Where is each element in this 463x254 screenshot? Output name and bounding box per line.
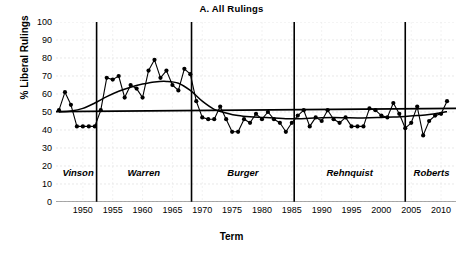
y-tick-label: 70 (24, 72, 52, 81)
chart-title: A. All Rulings (0, 3, 463, 14)
y-tick-label: 20 (24, 162, 52, 171)
x-tick-label: 1965 (162, 205, 182, 215)
y-tick-label: 10 (24, 180, 52, 189)
x-tick-label: 2000 (371, 205, 391, 215)
plot-area (56, 22, 456, 202)
chart-figure: A. All Rulings % Liberal Rulings 0102030… (0, 0, 463, 254)
y-tick-label: 80 (24, 54, 52, 63)
x-tick-label: 1995 (342, 205, 362, 215)
era-divider-lines (97, 22, 406, 202)
data-points (57, 58, 449, 138)
y-axis-ticks: 0102030405060708090100 (22, 22, 52, 202)
y-tick-label: 40 (24, 126, 52, 135)
x-tick-label: 2010 (431, 205, 451, 215)
x-tick-label: 1960 (133, 205, 153, 215)
y-tick-label: 60 (24, 90, 52, 99)
y-tick-label: 50 (24, 108, 52, 117)
x-tick-label: 1970 (192, 205, 212, 215)
x-axis-label: Term (0, 231, 463, 242)
y-tick-label: 0 (24, 198, 52, 207)
x-tick-label: 2005 (401, 205, 421, 215)
x-axis-ticks: 1950195519601965197019751980198519901995… (56, 205, 456, 219)
x-tick-label: 1955 (103, 205, 123, 215)
plot-svg (56, 22, 456, 202)
y-tick-label: 90 (24, 36, 52, 45)
x-tick-label: 1950 (73, 205, 93, 215)
y-tick-label: 30 (24, 144, 52, 153)
x-tick-label: 1990 (312, 205, 332, 215)
x-tick-label: 1975 (222, 205, 242, 215)
y-tick-label: 100 (24, 18, 52, 27)
x-tick-label: 1980 (252, 205, 272, 215)
data-line (59, 60, 447, 136)
x-tick-label: 1985 (282, 205, 302, 215)
